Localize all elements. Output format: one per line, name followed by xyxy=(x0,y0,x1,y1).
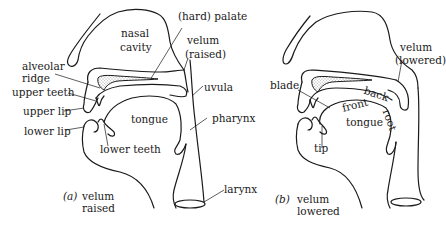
larynx-ring-a xyxy=(175,200,205,208)
pharynx-back-wall-a xyxy=(190,60,204,202)
label-alveolar-ridge-line1: alveolar xyxy=(22,61,65,72)
label-tongue-b: tongue xyxy=(346,117,383,128)
label-tip: tip xyxy=(314,143,328,154)
lower-lip-a xyxy=(84,120,98,132)
leader-pharynx xyxy=(190,118,207,130)
label-hard-palate: (hard) palate xyxy=(178,11,247,22)
leader-larynx xyxy=(204,190,224,202)
caption-b-line2: lowered xyxy=(297,206,340,217)
leader-uvula xyxy=(192,86,203,96)
nose-outline-a xyxy=(67,9,184,70)
nose-outline-b xyxy=(283,11,418,88)
upper-teeth-b xyxy=(310,98,318,108)
label-upper-lip: upper lip xyxy=(23,106,71,117)
velum-b xyxy=(388,80,409,110)
upper-teeth-a xyxy=(96,96,104,106)
label-pharynx: pharynx xyxy=(212,113,255,124)
label-velum-lowered-line2: (lowered) xyxy=(395,55,446,66)
lower-teeth-a xyxy=(98,119,115,136)
label-velum-raised-line2: (raised) xyxy=(185,49,226,60)
hard-palate-bone-a xyxy=(98,75,158,90)
caption-a-letter: (a) xyxy=(63,191,77,202)
label-tongue: tongue xyxy=(131,114,168,125)
upper-lip-b xyxy=(297,82,310,113)
label-velum-lowered-line1: velum xyxy=(400,42,432,53)
label-larynx: larynx xyxy=(224,184,257,195)
caption-a-line2: raised xyxy=(82,203,115,214)
label-upper-teeth: upper teeth xyxy=(12,87,74,98)
pharynx-back-wall-b xyxy=(418,88,424,200)
label-nasal-cavity-line1: nasal xyxy=(121,28,149,39)
label-velum-raised-line1: velum xyxy=(187,35,219,46)
label-uvula: uvula xyxy=(204,82,233,93)
label-lower-lip: lower lip xyxy=(24,126,71,137)
label-blade: blade xyxy=(270,80,299,91)
label-lower-teeth: lower teeth xyxy=(100,144,161,155)
caption-b-letter: (b) xyxy=(275,194,290,205)
pharynx-front-wall-b xyxy=(387,142,396,208)
larynx-ring-b xyxy=(391,198,421,206)
label-nasal-cavity-line2: cavity xyxy=(120,42,152,53)
label-alveolar-ridge-line2: ridge xyxy=(22,73,50,84)
lower-lip-b xyxy=(298,118,312,130)
caption-b-line1: velum xyxy=(297,194,329,205)
caption-a-line1: velum xyxy=(82,191,114,202)
